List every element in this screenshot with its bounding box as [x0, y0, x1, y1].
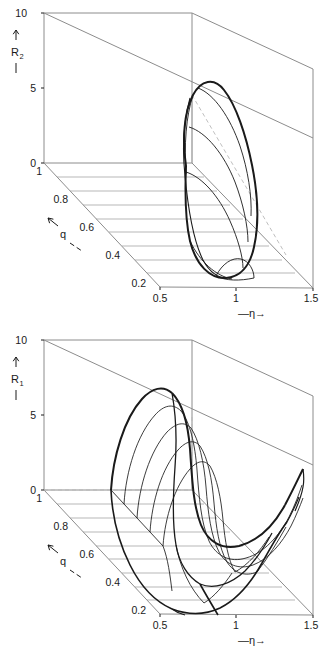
plot-upper-svg: 10 5 0 R 2 1 0.8 0.6 0.4 0.2 q [0, 0, 325, 326]
x-axis-label-lower: —η→ [238, 634, 266, 646]
x-tick-label-05: 0.5 [153, 292, 168, 304]
x-axis-label-upper: —η→ [238, 307, 266, 319]
z-axis-name-lower: R 1 [11, 357, 24, 400]
z-axis-name-upper: R 2 [11, 30, 24, 73]
y-tick-label-02: 0.2 [131, 604, 146, 616]
z-tick-label-5: 5 [30, 82, 36, 94]
x-tick-label-15: 1.5 [304, 619, 319, 631]
z-tick-label-5: 5 [30, 409, 36, 421]
z-axis-label-letter: R [11, 373, 19, 385]
y-axis-name-lower: q [48, 545, 82, 578]
y-tick-label-04: 0.4 [105, 249, 120, 261]
y-tick-label-04: 0.4 [105, 576, 120, 588]
x-tick-label-1: 1 [233, 619, 239, 631]
y-tick-label-1: 1 [36, 492, 42, 504]
z-axis-label-subscript: 2 [20, 52, 24, 61]
y-tick-label-06: 0.6 [79, 548, 94, 560]
axes-frame-upper [44, 13, 313, 288]
y-tick-label-02: 0.2 [131, 277, 146, 289]
x-tick-label-1: 1 [233, 292, 239, 304]
x-tick-label-15: 1.5 [304, 292, 319, 304]
z-axis-label-letter: R [11, 46, 19, 58]
z-tick-label-10: 10 [15, 334, 27, 346]
y-axis-name-upper: q [48, 218, 82, 251]
axes-frame-lower [44, 340, 313, 615]
plot-lower-svg: 10 5 0 R 1 1 0.8 0.6 0.4 0.2 q 0.5 1 [0, 327, 325, 653]
plot-upper-r2: 10 5 0 R 2 1 0.8 0.6 0.4 0.2 q [0, 0, 325, 326]
plot-lower-r1: 10 5 0 R 1 1 0.8 0.6 0.4 0.2 q 0.5 1 [0, 327, 325, 653]
y-tick-label-06: 0.6 [79, 221, 94, 233]
surface-upper-r2 [184, 82, 258, 280]
surface-lower-r1 [111, 388, 304, 615]
y-axis-label-letter: q [60, 555, 66, 567]
y-tick-label-1: 1 [36, 165, 42, 177]
z-tick-label-10: 10 [15, 7, 27, 19]
y-tick-label-08: 0.8 [53, 520, 68, 532]
dashed-guide-lower [44, 417, 192, 490]
figure-3d-surface-pair: 10 5 0 R 2 1 0.8 0.6 0.4 0.2 q [0, 0, 325, 653]
y-axis-label-letter: q [60, 228, 66, 240]
x-tick-label-05: 0.5 [153, 619, 168, 631]
y-tick-label-08: 0.8 [53, 193, 68, 205]
z-axis-label-subscript: 1 [20, 379, 24, 388]
